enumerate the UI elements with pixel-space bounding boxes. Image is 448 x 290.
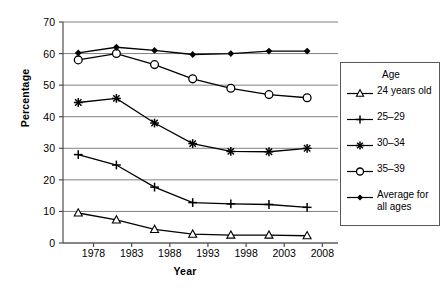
series-0	[74, 209, 311, 239]
circle-open-icon	[345, 164, 375, 177]
legend-entries: 24 years old25–2930–3435–39Average for a…	[341, 85, 441, 215]
data-point	[75, 50, 82, 57]
data-point	[357, 194, 363, 200]
data-point	[188, 198, 197, 207]
legend-item: Average for all ages	[341, 189, 441, 215]
asterisk-icon	[345, 138, 375, 151]
data-point	[226, 147, 235, 156]
data-point	[265, 91, 273, 99]
series-4	[75, 44, 311, 58]
triangle-open-icon	[345, 86, 375, 99]
legend-label: Average for all ages	[375, 189, 429, 212]
legend-label: 24 years old	[375, 85, 431, 97]
data-point	[151, 47, 158, 54]
data-point	[151, 61, 159, 69]
data-point	[303, 144, 312, 153]
data-point	[227, 84, 235, 92]
diamond-filled-icon	[345, 190, 375, 203]
data-point	[150, 183, 159, 192]
legend: Age 24 years old25–2930–3435–39Average f…	[340, 62, 440, 226]
series-1	[74, 150, 312, 212]
data-point	[150, 119, 159, 128]
legend-item: 25–29	[341, 111, 441, 137]
legend-label: 25–29	[375, 111, 405, 123]
data-point	[356, 142, 364, 150]
data-point	[356, 116, 364, 124]
legend-item: 35–39	[341, 163, 441, 189]
legend-item: 30–34	[341, 137, 441, 163]
data-point	[112, 94, 121, 103]
data-point	[74, 98, 83, 107]
data-point	[227, 50, 234, 57]
legend-title: Age	[341, 69, 441, 80]
legend-label: 35–39	[375, 163, 405, 175]
legend-item: 24 years old	[341, 85, 441, 111]
data-point	[113, 44, 120, 51]
data-point	[303, 94, 311, 102]
data-point	[112, 161, 121, 170]
data-point	[74, 56, 82, 64]
data-point	[226, 199, 235, 208]
data-point	[74, 209, 82, 216]
legend-label: 30–34	[375, 137, 405, 149]
data-point	[356, 168, 363, 175]
data-point	[113, 50, 121, 58]
data-point	[189, 51, 196, 58]
data-point	[303, 203, 312, 212]
data-point	[265, 200, 274, 209]
data-point	[74, 150, 83, 159]
data-point	[188, 139, 197, 148]
plus-icon	[345, 112, 375, 125]
data-point	[189, 75, 197, 83]
series-2	[74, 94, 312, 156]
chart-container: Percentage Year 010203040506070 19781983…	[0, 0, 448, 290]
data-point	[265, 147, 274, 156]
